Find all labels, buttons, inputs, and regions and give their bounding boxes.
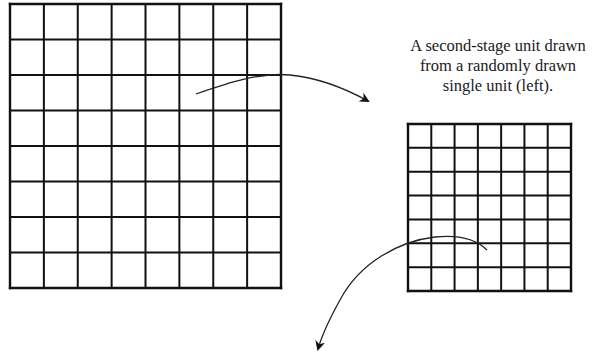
caption-line-1: A second-stage unit drawn [400, 36, 596, 56]
second-stage-unit-grid [408, 124, 571, 291]
caption-line-3: single unit (left). [400, 76, 596, 96]
caption-line-2: from a randomly drawn [400, 56, 596, 76]
single-unit-grid [10, 4, 281, 288]
caption-text: A second-stage unit drawn from a randoml… [400, 36, 596, 96]
arrow-to-next-stage-icon [318, 236, 487, 349]
diagram-canvas: A second-stage unit drawn from a randoml… [0, 0, 599, 356]
